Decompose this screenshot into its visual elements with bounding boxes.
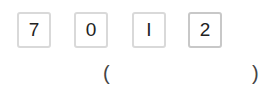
digit-card-0: 0: [74, 12, 108, 48]
answer-close-paren: ): [252, 62, 259, 85]
answer-blank[interactable]: [115, 62, 245, 86]
digit-card-1: I: [132, 12, 166, 48]
digit-card-7: 7: [17, 12, 51, 48]
digit-card-2: 2: [188, 12, 222, 48]
answer-open-paren: (: [103, 62, 110, 85]
